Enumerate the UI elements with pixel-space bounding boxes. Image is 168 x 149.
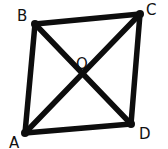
vertex-a-dot (21, 129, 29, 137)
edge-cd (131, 14, 140, 124)
vertex-c-dot (136, 10, 144, 18)
edge-bc (35, 14, 140, 24)
edge-da (25, 124, 131, 133)
quadrilateral-diagram: A B C D O (0, 0, 168, 149)
label-d: D (139, 125, 151, 143)
label-c: C (146, 1, 156, 19)
diagonals (25, 14, 140, 133)
vertex-b-dot (31, 20, 39, 28)
vertex-d-dot (127, 120, 135, 128)
label-o: O (76, 55, 88, 73)
label-a: A (9, 134, 20, 149)
edge-ab (25, 24, 35, 133)
label-b: B (17, 7, 27, 25)
